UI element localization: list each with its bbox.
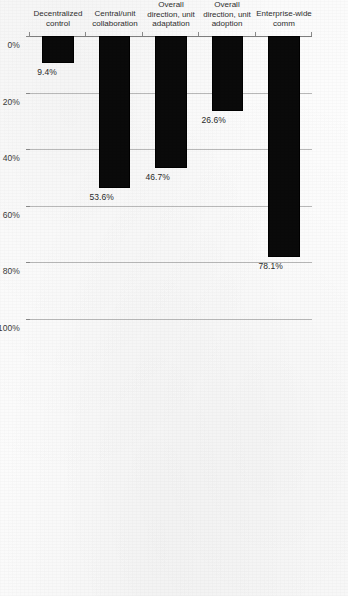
bar-value-label: 53.6% (89, 192, 114, 202)
axis-tick-label: 100% (0, 323, 20, 333)
bar (42, 36, 74, 63)
category-label: Overall direction, unit adoption (199, 0, 255, 28)
axis-tick-label: 20% (3, 97, 20, 107)
axis-tick-mark (26, 262, 30, 263)
bar (99, 36, 131, 188)
category-tick-mark (198, 32, 199, 36)
category-tick-mark (311, 32, 312, 36)
axis-tick-mark (26, 149, 30, 150)
bar-value-label: 46.7% (145, 172, 170, 182)
category-tick-mark (29, 32, 30, 36)
bar-value-label: 9.4% (37, 67, 57, 77)
category-label: Central/unit collaboration (86, 9, 142, 28)
category-label: Decentralized control (30, 9, 86, 28)
axis-tick-mark (26, 93, 30, 94)
category-label: Overall direction, unit adaptation (143, 0, 199, 28)
bar-chart: 78.1%26.6%46.7%53.6%9.4% 0%20%40%60%80%1… (0, 0, 348, 596)
category-tick-mark (255, 32, 256, 36)
bar (212, 36, 244, 111)
bar (268, 36, 300, 257)
chart-rotation-wrapper: 78.1%26.6%46.7%53.6%9.4% 0%20%40%60%80%1… (0, 0, 348, 596)
axis-tick-label: 40% (3, 153, 20, 163)
category-tick-mark (142, 32, 143, 36)
bar-value-label: 26.6% (202, 115, 227, 125)
axis-tick-label: 80% (3, 266, 20, 276)
bar-value-label: 78.1% (258, 261, 283, 271)
axis-tick-mark (26, 319, 30, 320)
axis-tick-label: 0% (8, 40, 21, 50)
scanned-page: 78.1%26.6%46.7%53.6%9.4% 0%20%40%60%80%1… (0, 0, 348, 596)
axis-tick-mark (26, 36, 30, 37)
axis-tick-mark (26, 206, 30, 207)
category-label: Enterprise-wide comm (256, 9, 312, 28)
category-tick-mark (85, 32, 86, 36)
gridline-100 (30, 319, 312, 320)
axis-tick-label: 60% (3, 210, 20, 220)
bar (155, 36, 187, 168)
